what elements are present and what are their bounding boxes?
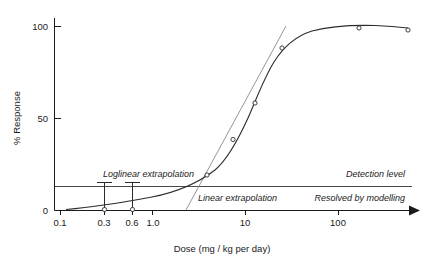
y-tick-label-0: 0	[43, 205, 48, 216]
chart-svg: 100 50 0 0.1 0.3 0.6 1.0 10 100 Dose (mg…	[0, 0, 424, 263]
annotation-detection-level: Detection level	[346, 169, 406, 179]
data-point-marker	[406, 28, 410, 32]
data-point-marker	[357, 26, 361, 30]
x-tick-label-0-1: 0.1	[53, 217, 66, 228]
data-point-marker	[253, 101, 257, 105]
data-point-marker	[231, 137, 235, 141]
x-tick-label-100: 100	[330, 217, 346, 228]
dose-response-figure: 100 50 0 0.1 0.3 0.6 1.0 10 100 Dose (mg…	[0, 0, 424, 263]
x-tick-label-10: 10	[240, 217, 251, 228]
y-axis-title: % Response	[11, 91, 22, 145]
data-point-marker	[102, 207, 106, 211]
y-tick-label-50: 50	[37, 113, 48, 124]
data-point-marker	[130, 207, 134, 211]
annotation-loglinear-extrapolation: Loglinear extrapolation	[103, 169, 194, 179]
x-tick-label-0-6: 0.6	[125, 217, 138, 228]
y-tick-label-100: 100	[32, 21, 48, 32]
annotation-resolved-by-modelling: Resolved by modelling	[314, 193, 405, 203]
data-point-marker	[280, 46, 284, 50]
x-tick-label-1-0: 1.0	[146, 217, 159, 228]
data-point-marker	[205, 173, 209, 177]
annotation-linear-extrapolation: Linear extrapolation	[198, 193, 277, 203]
x-tick-label-0-3: 0.3	[97, 217, 110, 228]
x-axis-title: Dose (mg / kg per day)	[174, 243, 271, 254]
